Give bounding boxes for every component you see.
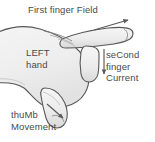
- middle-finger-shape: [80, 46, 99, 82]
- fleming-left-hand-rule-diagram: First finger Field LEFT hand seCond fing…: [0, 0, 155, 142]
- label-second-finger-current: seCond finger Current: [106, 49, 139, 84]
- label-thumb-movement: thuMb Movement: [11, 109, 56, 132]
- label-left-hand: LEFT hand: [26, 47, 50, 70]
- index-finger-shape: [60, 27, 133, 48]
- label-first-finger-field: First finger Field: [28, 4, 98, 16]
